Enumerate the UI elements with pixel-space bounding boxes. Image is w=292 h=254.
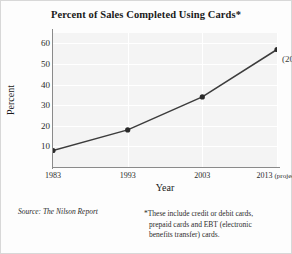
footnote-line: *These include credit or debit cards,	[144, 209, 286, 220]
x-axis-tick-label: 2003	[194, 171, 210, 180]
x-axis-tick-year: 2013	[257, 171, 275, 180]
footnote: *These include credit or debit cards,pre…	[144, 209, 286, 241]
x-axis-title: Year	[53, 182, 277, 193]
data-point-marker	[200, 94, 205, 99]
series-polyline	[53, 50, 277, 151]
source-note: Source: The Nilson Report	[18, 207, 98, 216]
data-point-marker	[53, 148, 56, 153]
gridline-vertical	[277, 33, 278, 167]
y-axis-tick-labels: 102030405060	[1, 1, 50, 254]
y-axis-tick-label: 50	[4, 59, 50, 69]
data-point-annotation: (2013, 57)	[282, 54, 292, 64]
y-axis-tick-label: 20	[4, 121, 50, 131]
data-point-marker	[125, 127, 130, 132]
y-axis-tick-label: 60	[4, 38, 50, 48]
data-series-line	[53, 33, 277, 167]
y-axis-tick-label: 10	[4, 141, 50, 151]
chart-figure: Percent of Sales Completed Using Cards* …	[0, 0, 292, 254]
x-axis-tick-projected-note: (projected)	[275, 172, 292, 180]
x-axis-line	[52, 167, 280, 168]
footnote-line: benefits transfer) cards.	[144, 230, 286, 241]
footnote-line: prepaid cards and EBT (electronic	[144, 220, 286, 231]
x-axis-tick-label: 2013 (projected)	[257, 171, 292, 180]
x-axis-tick-label: 1983	[45, 171, 61, 180]
y-axis-title: Percent	[5, 85, 16, 115]
x-axis-tick-label: 1993	[120, 171, 136, 180]
